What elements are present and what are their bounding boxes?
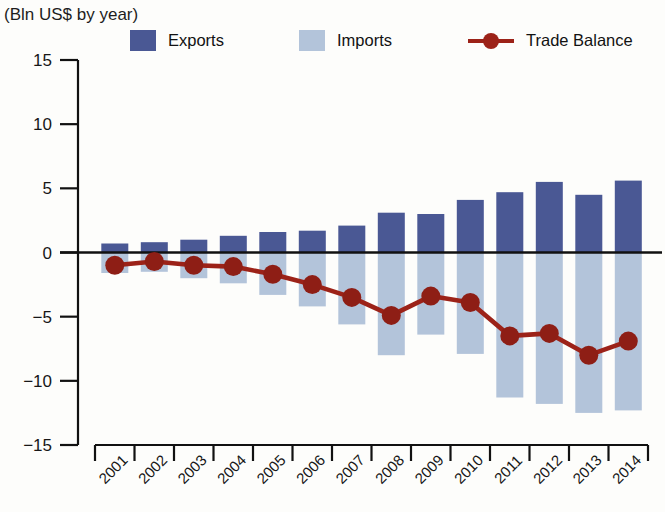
bar-exports-2002 xyxy=(141,242,168,252)
x-tick-label-2003: 2003 xyxy=(174,451,210,487)
bar-exports-2001 xyxy=(101,244,128,253)
bar-exports-2009 xyxy=(417,214,444,253)
x-tick-label-2012: 2012 xyxy=(530,451,566,487)
bars-exports-group xyxy=(101,181,642,253)
trade-balance-point-2001[interactable] xyxy=(105,256,124,275)
x-tick-label-2008: 2008 xyxy=(372,451,408,487)
bar-exports-2011 xyxy=(496,192,523,252)
y-tick-label--5: −5 xyxy=(33,308,52,327)
x-tick-label-2007: 2007 xyxy=(332,451,368,487)
x-tick-label-2011: 2011 xyxy=(490,452,525,487)
x-tick-label-2009: 2009 xyxy=(411,451,447,487)
trade-balance-point-2011[interactable] xyxy=(500,326,519,345)
bar-exports-2008 xyxy=(378,213,405,253)
bar-exports-2004 xyxy=(220,236,247,253)
trade-balance-point-2013[interactable] xyxy=(579,346,598,365)
trade-balance-point-2008[interactable] xyxy=(382,306,401,325)
x-tick-label-2005: 2005 xyxy=(253,451,289,487)
y-tick-label-10: 10 xyxy=(33,115,52,134)
trade-balance-point-2006[interactable] xyxy=(303,275,322,294)
x-tick-label-2013: 2013 xyxy=(569,451,605,487)
trade-balance-point-2002[interactable] xyxy=(145,252,164,271)
trade-balance-point-2004[interactable] xyxy=(224,257,243,276)
trade-balance-point-2012[interactable] xyxy=(540,324,559,343)
bar-exports-2010 xyxy=(457,200,484,253)
trade-balance-point-2007[interactable] xyxy=(342,288,361,307)
bar-exports-2005 xyxy=(259,232,286,253)
y-tick-label--15: −15 xyxy=(23,436,52,455)
y-axis-tick-labels: 151050−5−10−15 xyxy=(23,51,52,455)
y-tick-label--10: −10 xyxy=(23,372,52,391)
x-axis xyxy=(95,445,648,461)
bar-exports-2007 xyxy=(338,226,365,253)
x-tick-label-2006: 2006 xyxy=(293,451,329,487)
trade-balance-point-2014[interactable] xyxy=(619,332,638,351)
bars-imports-group xyxy=(101,253,642,413)
x-tick-label-2004: 2004 xyxy=(214,451,250,487)
bar-exports-2003 xyxy=(180,240,207,253)
y-tick-label-5: 5 xyxy=(43,179,52,198)
bar-exports-2013 xyxy=(575,195,602,253)
y-axis xyxy=(60,60,78,445)
trade-balance-point-2003[interactable] xyxy=(184,256,203,275)
x-tick-label-2002: 2002 xyxy=(135,451,171,487)
bar-imports-2008 xyxy=(378,253,405,356)
x-tick-label-2001: 2001 xyxy=(95,451,131,487)
trade-balance-point-2009[interactable] xyxy=(421,287,440,306)
x-tick-label-2010: 2010 xyxy=(451,451,487,487)
bar-exports-2012 xyxy=(536,182,563,253)
y-tick-label-15: 15 xyxy=(33,51,52,70)
trade-balance-point-2005[interactable] xyxy=(263,265,282,284)
bar-exports-2014 xyxy=(615,181,642,253)
chart-plot-area: 151050−5−10−15 2001200220032004200520062… xyxy=(0,0,665,512)
x-tick-label-2014: 2014 xyxy=(609,451,645,487)
bar-exports-2006 xyxy=(299,231,326,253)
bar-imports-2013 xyxy=(575,253,602,413)
bar-imports-2014 xyxy=(615,253,642,411)
x-axis-tick-labels: 2001200220032004200520062007200820092010… xyxy=(95,451,644,487)
trade-balance-point-2010[interactable] xyxy=(461,293,480,312)
y-tick-label-0: 0 xyxy=(43,244,52,263)
